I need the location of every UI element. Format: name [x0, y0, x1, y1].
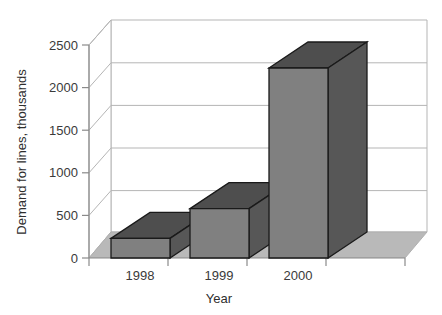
y-tick-label-2000: 2000 — [49, 80, 78, 95]
bar-1999-front — [190, 209, 249, 258]
y-tick-label-1500: 1500 — [49, 123, 78, 138]
bar-2000-side — [328, 42, 367, 258]
chart-canvas: 0 500 1000 1500 2000 2500 — [0, 0, 442, 315]
y-axis-title: Demand for lines, thousands — [14, 69, 29, 235]
y-tick-label-1000: 1000 — [49, 165, 78, 180]
chart-left-wall — [89, 20, 111, 258]
bar-chart: 0 500 1000 1500 2000 2500 — [0, 0, 442, 315]
x-tick-label-1998: 1998 — [126, 268, 155, 283]
y-tick-label-500: 500 — [56, 208, 78, 223]
y-axis-tick-labels: 0 500 1000 1500 2000 2500 — [49, 38, 78, 266]
x-tick-label-2000: 2000 — [284, 268, 313, 283]
x-axis-tick-labels: 1998 1999 2000 — [126, 268, 313, 283]
x-tick-label-1999: 1999 — [205, 268, 234, 283]
bar-2000-front — [269, 68, 328, 258]
y-tick-label-0: 0 — [71, 251, 78, 266]
x-axis-title: Year — [206, 291, 233, 306]
bar-1998-front — [111, 238, 170, 258]
bar-2000[interactable] — [269, 42, 367, 258]
y-axis-ticks — [82, 45, 89, 258]
y-tick-label-2500: 2500 — [49, 38, 78, 53]
